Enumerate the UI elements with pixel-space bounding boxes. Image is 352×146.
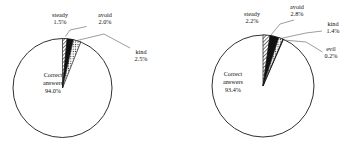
left-label-avoid: avoid 2.0% xyxy=(88,12,122,26)
right-label-kind-value: 1.4% xyxy=(318,28,348,35)
left-pie-chart-panel: steady 1.5% avoid 2.0% kind 2.5% Correct… xyxy=(0,0,176,146)
right-label-correct-answers-line2: answers xyxy=(208,78,258,86)
left-label-avoid-value: 2.0% xyxy=(88,19,122,26)
left-label-correct-answers: Correct answers 94.0% xyxy=(28,71,78,95)
pie-chart-figure: steady 1.5% avoid 2.0% kind 2.5% Correct… xyxy=(0,0,352,146)
left-label-steady-value: 1.5% xyxy=(42,19,78,26)
left-label-steady: steady 1.5% xyxy=(42,12,78,26)
right-label-steady-value: 2.2% xyxy=(234,18,270,25)
right-label-evil-value: 0.2% xyxy=(316,53,346,60)
left-label-correct-answers-value: 94.0% xyxy=(28,87,78,95)
right-pie-chart-panel: steady 2.2% avoid 2.8% kind 1.4% evil 0.… xyxy=(176,0,352,146)
right-label-avoid-value: 2.8% xyxy=(280,11,314,18)
right-label-kind: kind 1.4% xyxy=(318,21,348,35)
right-label-avoid: avoid 2.8% xyxy=(280,4,314,18)
right-label-steady: steady 2.2% xyxy=(234,11,270,25)
left-label-kind: kind 2.5% xyxy=(126,49,156,63)
left-leader-avoid xyxy=(66,27,87,37)
right-leader-kind xyxy=(281,31,323,39)
left-label-correct-answers-line1: Correct xyxy=(28,71,78,79)
right-label-correct-answers-line1: Correct xyxy=(208,70,258,78)
right-label-correct-answers: Correct answers 93.4% xyxy=(208,70,258,94)
left-label-kind-value: 2.5% xyxy=(126,56,156,63)
right-leader-avoid xyxy=(271,20,294,35)
right-label-evil: evil 0.2% xyxy=(316,46,346,60)
right-label-correct-answers-value: 93.4% xyxy=(208,86,258,94)
left-label-correct-answers-line2: answers xyxy=(28,79,78,87)
